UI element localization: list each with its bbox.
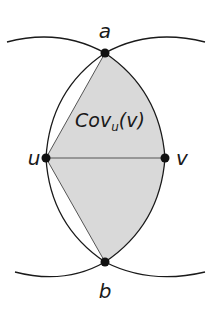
region-label-arg: (v) [119,109,145,131]
label-u: u [28,146,41,170]
coverage-diagram: a u v b Covu(v) [0,0,221,309]
top-left-arc [7,37,105,53]
label-b: b [99,279,112,303]
label-a: a [99,19,111,43]
top-right-arc [105,37,205,53]
region-label: Covu(v) [75,109,145,134]
bottom-right-arc [105,262,205,277]
vertex-u [42,154,51,163]
vertex-a [101,49,110,58]
bottom-left-arc [15,262,105,277]
vertex-b [101,258,110,267]
label-v: v [176,146,189,170]
vertex-v [161,154,170,163]
region-label-main: Cov [75,109,112,131]
